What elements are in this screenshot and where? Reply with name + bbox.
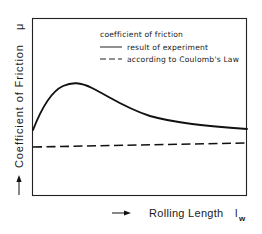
x-arrow-icon bbox=[124, 210, 131, 215]
x-axis-label: Rolling Length l w bbox=[112, 207, 246, 223]
x-axis-subscript: w bbox=[238, 214, 246, 223]
legend-solid-label: result of experiment bbox=[127, 43, 208, 52]
y-axis-label: Coefficient of Friction μ bbox=[13, 24, 25, 195]
x-axis-title: Rolling Length bbox=[149, 207, 224, 219]
legend-dashed-label: according to Coulomb's Law bbox=[127, 55, 239, 64]
y-axis-title: Coefficient of Friction bbox=[13, 44, 25, 168]
y-arrow-icon bbox=[16, 175, 21, 182]
friction-chart: coefficient of friction result of experi… bbox=[0, 0, 262, 234]
legend: coefficient of friction result of experi… bbox=[100, 30, 239, 64]
experiment-curve bbox=[33, 83, 247, 130]
coulomb-line bbox=[33, 143, 247, 147]
legend-title: coefficient of friction bbox=[100, 30, 183, 39]
y-axis-symbol: μ bbox=[13, 24, 25, 30]
x-axis-symbol: l bbox=[235, 207, 237, 219]
